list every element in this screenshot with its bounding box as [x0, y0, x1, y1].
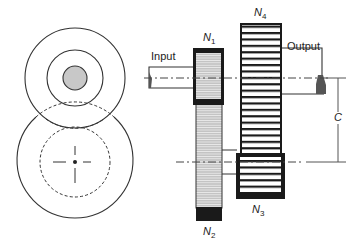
gear-label-n4: N4	[254, 6, 266, 21]
gear-label-n3: N3	[252, 203, 264, 218]
gear-label-n2: N2	[203, 225, 215, 240]
lower-gear-outer-circle	[17, 117, 133, 218]
gear-n1	[193, 48, 224, 105]
input-label: Input	[151, 50, 175, 62]
shaft-hub	[63, 66, 87, 90]
end-view	[17, 28, 133, 218]
gear-label-n1: N1	[203, 31, 215, 46]
center-distance-label: C	[334, 111, 342, 123]
lower-gear-hidden-arc	[36, 102, 114, 117]
gear-train-diagram	[0, 0, 359, 249]
center-mark-icon	[53, 146, 91, 183]
output-shaft	[281, 48, 326, 94]
gear-n3	[236, 153, 285, 199]
output-label: Output	[287, 40, 320, 52]
gear-n4	[241, 24, 281, 156]
